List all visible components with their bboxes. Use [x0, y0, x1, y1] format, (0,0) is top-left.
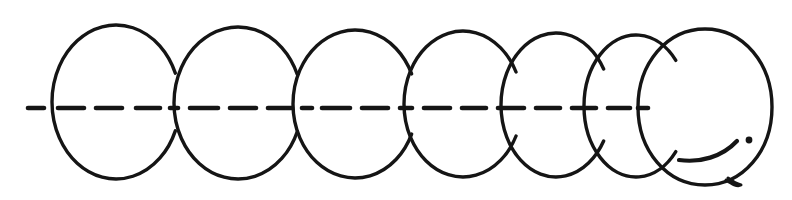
background-plate: [0, 0, 792, 200]
figure-canvas: Rolling circle motion sequence Hand-draw…: [0, 0, 792, 200]
ink-dot: [746, 137, 753, 144]
line-art-illustration: [0, 0, 792, 200]
